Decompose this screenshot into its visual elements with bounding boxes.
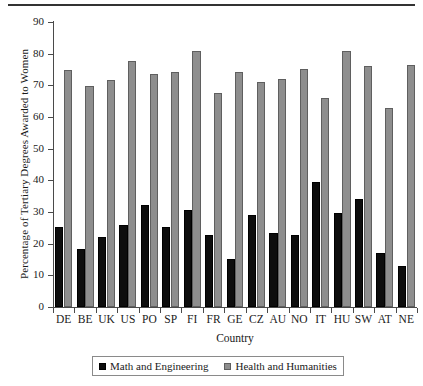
bar-au-series-0 [269, 233, 277, 307]
x-tick-label-po: PO [139, 314, 160, 326]
x-tick-label-ne: NE [396, 314, 417, 326]
y-tick-label: 50 [12, 143, 44, 154]
bar-at-series-1 [385, 108, 393, 307]
x-tick-label-no: NO [289, 314, 310, 326]
bar-sw-series-1 [364, 66, 372, 307]
chart-figure: Percentage of Tertiary Degrees Awarded t… [0, 0, 423, 386]
bar-sp-series-1 [171, 72, 179, 307]
legend-swatch-icon-series-1 [224, 363, 231, 370]
y-tick-label: 10 [12, 269, 44, 280]
x-tick-mark [203, 308, 204, 313]
y-tick-label: 30 [12, 206, 44, 217]
bar-us-series-0 [119, 225, 127, 307]
x-tick-mark [117, 308, 118, 313]
x-tick-mark [160, 308, 161, 313]
x-tick-label-it: IT [310, 314, 331, 326]
y-tick-label: 70 [12, 79, 44, 90]
x-axis-title: Country [53, 332, 417, 344]
bar-hu-series-0 [334, 213, 342, 307]
bar-fi-series-1 [192, 51, 200, 308]
legend-entry-math-and-engineering: Math and Engineering [99, 360, 208, 372]
x-tick-label-hu: HU [331, 314, 352, 326]
legend-entry-health-and-humanities: Health and Humanities [224, 360, 336, 372]
x-tick-mark [181, 308, 182, 313]
bar-at-series-0 [376, 253, 384, 307]
y-tick-label: 20 [12, 238, 44, 249]
y-axis-title: Percentage of Tertiary Degrees Awarded t… [18, 24, 30, 304]
x-tick-label-uk: UK [96, 314, 117, 326]
bar-cz-series-0 [248, 215, 256, 307]
x-tick-label-ge: GE [224, 314, 245, 326]
x-tick-label-au: AU [267, 314, 288, 326]
x-tick-label-de: DE [53, 314, 74, 326]
bar-uk-series-1 [107, 80, 115, 307]
bar-fr-series-1 [214, 93, 222, 307]
bar-po-series-1 [150, 74, 158, 307]
x-tick-mark [396, 308, 397, 313]
x-axis-line [53, 307, 417, 308]
x-tick-label-be: BE [74, 314, 95, 326]
x-tick-mark [53, 308, 54, 313]
bar-po-series-0 [141, 205, 149, 307]
x-tick-mark [289, 308, 290, 313]
x-tick-mark [267, 308, 268, 313]
bar-cz-series-1 [257, 82, 265, 307]
bar-no-series-1 [300, 69, 308, 307]
y-tick-label: 60 [12, 111, 44, 122]
x-tick-label-fi: FI [181, 314, 202, 326]
bar-ge-series-1 [235, 72, 243, 307]
x-tick-mark [246, 308, 247, 313]
bar-us-series-1 [128, 61, 136, 307]
x-tick-label-at: AT [374, 314, 395, 326]
bar-it-series-0 [312, 182, 320, 307]
x-tick-label-cz: CZ [246, 314, 267, 326]
x-tick-label-sw: SW [353, 314, 374, 326]
bar-fr-series-0 [205, 235, 213, 307]
y-tick-label: 40 [12, 174, 44, 185]
bar-ne-series-1 [407, 65, 415, 307]
bar-be-series-0 [77, 249, 85, 307]
x-tick-mark [139, 308, 140, 313]
y-tick-label: 0 [12, 301, 44, 312]
legend-label-series-1: Health and Humanities [235, 360, 336, 372]
x-tick-mark [96, 308, 97, 313]
y-tick-label: 90 [12, 16, 44, 27]
bar-uk-series-0 [98, 237, 106, 307]
bar-au-series-1 [278, 79, 286, 307]
bar-ne-series-0 [398, 266, 406, 307]
x-tick-mark [374, 308, 375, 313]
figure-top-rule [8, 4, 415, 6]
x-tick-mark [224, 308, 225, 313]
bar-hu-series-1 [342, 51, 350, 307]
bar-sw-series-0 [355, 199, 363, 307]
bar-sp-series-0 [162, 227, 170, 307]
legend-label-series-0: Math and Engineering [110, 360, 208, 372]
bar-ge-series-0 [227, 259, 235, 307]
x-tick-label-sp: SP [160, 314, 181, 326]
x-tick-label-us: US [117, 314, 138, 326]
x-tick-mark [331, 308, 332, 313]
legend-swatch-icon-series-0 [99, 363, 106, 370]
bar-it-series-1 [321, 98, 329, 307]
x-tick-mark [417, 308, 418, 313]
x-tick-label-fr: FR [203, 314, 224, 326]
x-tick-mark [353, 308, 354, 313]
bars-layer [53, 22, 417, 307]
bar-de-series-0 [55, 227, 63, 307]
y-tick-label: 80 [12, 48, 44, 59]
x-tick-mark [310, 308, 311, 313]
chart-legend: Math and Engineering Health and Humaniti… [92, 356, 344, 376]
bar-fi-series-0 [184, 210, 192, 307]
bar-de-series-1 [64, 70, 72, 307]
bar-no-series-0 [291, 235, 299, 307]
x-tick-mark [74, 308, 75, 313]
bar-be-series-1 [85, 86, 93, 307]
